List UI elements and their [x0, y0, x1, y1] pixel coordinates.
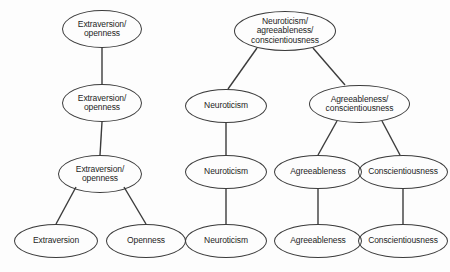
node-eo-openness[interactable]: Openness — [106, 224, 186, 258]
node-label: Extraversion/ openness — [76, 20, 128, 38]
edge-eo-l2-to-eo-l3 — [100, 122, 102, 155]
node-nac-l1[interactable]: Neuroticism/ agreeableness/ conscientiou… — [234, 11, 336, 51]
node-label: Openness — [125, 236, 167, 245]
diagram-canvas: Extraversion/ opennessExtraversion/ open… — [0, 0, 450, 272]
node-eo-l2[interactable]: Extraversion/ openness — [62, 84, 142, 122]
node-label: Conscientiousness — [366, 236, 440, 245]
node-c-l4[interactable]: Conscientiousness — [358, 224, 448, 258]
node-eo-l1[interactable]: Extraversion/ openness — [62, 10, 142, 48]
node-label: Neuroticism — [202, 236, 250, 245]
node-label: Extraversion/ openness — [74, 165, 126, 183]
node-label: Neuroticism — [202, 167, 250, 176]
node-label: Agreeableness — [288, 167, 347, 176]
node-label: Extraversion/ openness — [76, 94, 128, 112]
node-c-l3[interactable]: Conscientiousness — [358, 155, 448, 189]
edge-ac-l2-to-a-l3 — [318, 121, 337, 155]
node-label: Neuroticism/ agreeableness/ conscientiou… — [249, 17, 321, 45]
node-ac-l2[interactable]: Agreeableness/ conscientiousness — [309, 85, 410, 123]
node-n-l4[interactable]: Neuroticism — [185, 224, 267, 258]
node-eo-extraversion[interactable]: Extraversion — [14, 224, 98, 258]
node-label: Agreeableness — [288, 236, 347, 245]
edge-nac-l1-to-n-l2 — [228, 48, 257, 89]
node-a-l4[interactable]: Agreeableness — [274, 224, 362, 258]
node-n-l3[interactable]: Neuroticism — [185, 155, 267, 189]
edge-eo-l3-to-eo-openness — [124, 187, 146, 224]
node-label: Agreeableness/ conscientiousness — [324, 95, 396, 113]
node-label: Conscientiousness — [366, 167, 440, 176]
edge-eo-l3-to-eo-extraversion — [56, 187, 76, 224]
edge-ac-l2-to-c-l3 — [382, 121, 400, 155]
edge-nac-l1-to-ac-l2 — [313, 48, 345, 85]
node-a-l3[interactable]: Agreeableness — [274, 155, 362, 189]
node-eo-l3[interactable]: Extraversion/ openness — [58, 155, 142, 193]
node-label: Neuroticism — [202, 101, 250, 110]
node-label: Extraversion — [31, 236, 81, 245]
node-n-l2[interactable]: Neuroticism — [185, 89, 267, 123]
